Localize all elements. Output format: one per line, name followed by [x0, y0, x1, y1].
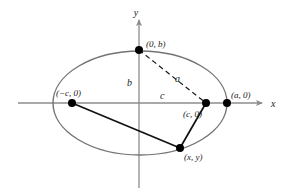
vertex-right-dot [223, 99, 231, 107]
co-vertex-top-dot [135, 46, 143, 54]
co-vertex-top-label: (0, b) [146, 39, 166, 49]
point-on-ellipse-dot [176, 144, 184, 152]
focus-left-label: (−c, 0) [56, 88, 81, 98]
focus-right-label: (c, 0) [183, 109, 202, 119]
semi-major-distance-label: a [175, 73, 180, 84]
focus-left-dot [68, 99, 76, 107]
left-focus-to-point-segment [72, 103, 180, 148]
focus-right-dot [202, 99, 210, 107]
vertex-right-label: (a, 0) [231, 90, 251, 100]
y-axis-label: y [133, 7, 139, 18]
point-on-ellipse-label: (x, y) [184, 152, 202, 162]
ellipse-figure: y x (0, b) (−c, 0) (c, 0) (a, 0) (x, y) … [0, 0, 285, 193]
semi-minor-axis-label: b [127, 77, 132, 88]
x-axis-label: x [270, 98, 276, 109]
ellipse-diagram-canvas: y x (0, b) (−c, 0) (c, 0) (a, 0) (x, y) … [0, 0, 285, 193]
covertex-to-focus-dashed-segment [139, 50, 206, 103]
focal-distance-label: c [160, 90, 165, 101]
